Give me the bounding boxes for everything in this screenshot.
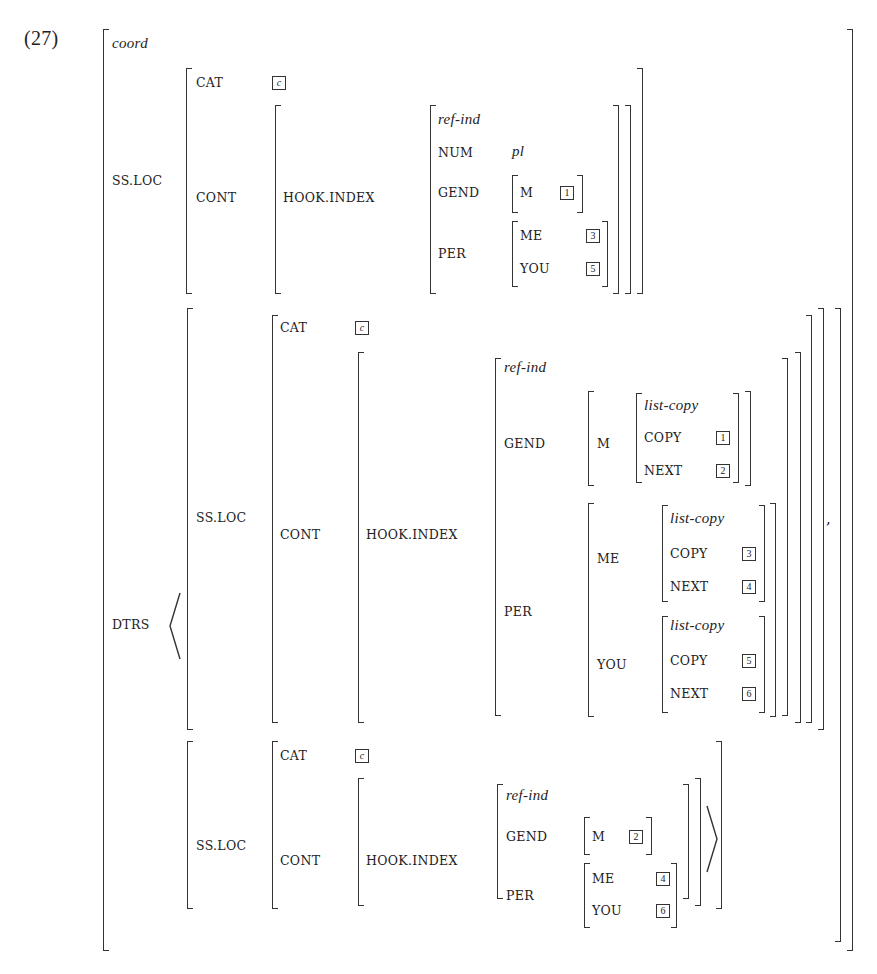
dtr2-per-you-tag: 6 [656, 904, 670, 918]
dtr1-index-type: ref-ind [504, 360, 546, 375]
dtr1-gend-label: GEND [504, 438, 545, 451]
dtr2-cat-label: CAT [280, 750, 307, 763]
dtr2-gend-m-label: M [592, 831, 605, 844]
mother-index-type: ref-ind [438, 112, 480, 127]
dtr1-gend-m-value-left-bracket [636, 393, 642, 483]
dtr1-per-you-copy-tag: 5 [742, 654, 756, 668]
dtr2-gend-right-bracket [646, 817, 652, 855]
dtr1-gend-left-bracket [588, 391, 594, 486]
dtr2-gend-label: GEND [506, 831, 547, 844]
mother-num-label: NUM [438, 147, 473, 160]
dtr1-ssloc-right-bracket [806, 315, 812, 723]
dtr2-index-left-bracket [497, 784, 503, 899]
example-number: (27) [24, 28, 59, 48]
dtr1-gend-copy-label: COPY [644, 432, 682, 445]
dtrs-separator-comma: , [826, 512, 831, 527]
dtr2-cont-left-bracket [358, 778, 364, 906]
dtr2-index-type: ref-ind [506, 788, 548, 803]
dtr1-per-you-value-right-bracket [759, 616, 765, 713]
dtr1-per-me-label: ME [597, 553, 620, 566]
outer-avm-left-bracket [103, 29, 109, 951]
dtr1-per-you-label: YOU [597, 659, 627, 672]
dtr1-index-right-bracket [782, 358, 788, 716]
mother-hook-index-label: HOOK.INDEX [283, 192, 375, 205]
dtr2-ssloc-outer-left-bracket [187, 741, 193, 909]
mother-gend-left-bracket [512, 175, 518, 213]
dtr1-gend-next-tag: 2 [716, 464, 730, 478]
mother-gend-m-label: M [520, 187, 533, 200]
mother-per-me-tag: 3 [586, 229, 600, 243]
dtr2-per-me-tag: 4 [656, 872, 670, 886]
dtr1-per-left-bracket [588, 503, 594, 717]
dtr1-per-right-bracket [770, 503, 776, 717]
dtrs-label: DTRS [112, 619, 150, 632]
dtr1-per-me-next-label: NEXT [670, 581, 709, 594]
outer-avm-right-bracket [847, 29, 853, 951]
dtr1-per-me-copy-tag: 3 [742, 547, 756, 561]
dtr1-ssloc-left-bracket [272, 315, 278, 723]
dtr1-left-bracket [187, 308, 193, 730]
mother-per-label: PER [438, 248, 466, 261]
mother-per-right-bracket [602, 221, 608, 287]
dtr1-per-you-next-tag: 6 [742, 687, 756, 701]
dtr2-gend-left-bracket [584, 817, 590, 855]
dtr1-cont-label: CONT [280, 529, 320, 542]
dtr2-per-right-bracket [671, 863, 677, 928]
dtr1-index-left-bracket [495, 358, 501, 716]
mother-ssloc-left-bracket [186, 68, 192, 294]
dtr1-per-you-type: list-copy [670, 618, 724, 633]
dtrs-value-right-bracket [835, 308, 841, 942]
dtrs-list-open-angle [168, 593, 182, 659]
dtr2-per-label: PER [506, 890, 534, 903]
dtr1-gend-m-value-right-bracket [733, 393, 739, 483]
mother-gend-right-bracket [577, 175, 583, 213]
dtr1-per-you-next-label: NEXT [670, 688, 709, 701]
dtr1-per-label: PER [504, 606, 532, 619]
mother-gend-m-tag: 1 [560, 186, 574, 200]
mother-per-you-tag: 5 [586, 262, 600, 276]
mother-cat-label: CAT [196, 77, 223, 90]
mother-num-value: pl [512, 144, 524, 159]
mother-cat-tag: c [272, 76, 286, 90]
dtr1-per-me-copy-label: COPY [670, 548, 708, 561]
mother-index-right-bracket [613, 105, 619, 294]
dtr1-per-you-copy-label: COPY [670, 655, 708, 668]
dtr1-cont-left-bracket [358, 352, 364, 723]
dtr1-per-me-value-right-bracket [759, 505, 765, 602]
dtr1-gend-next-label: NEXT [644, 465, 683, 478]
dtr1-cat-label: CAT [280, 322, 307, 335]
dtr1-gend-m-type: list-copy [644, 398, 698, 413]
dtr2-per-me-label: ME [592, 873, 615, 886]
dtr2-hook-index-label: HOOK.INDEX [366, 855, 458, 868]
mother-cont-left-bracket [275, 105, 281, 294]
dtr2-cat-tag: c [355, 749, 369, 763]
dtr2-ssloc-label: SS.LOC [196, 840, 246, 853]
mother-per-you-label: YOU [520, 263, 550, 276]
dtr2-per-left-bracket [584, 863, 590, 928]
dtr1-cat-tag: c [355, 321, 369, 335]
dtrs-list-close-angle [706, 806, 720, 872]
avm-type-coord: coord [112, 36, 148, 51]
mother-gend-label: GEND [438, 187, 479, 200]
dtr2-index-right-bracket [683, 784, 689, 899]
dtr1-per-me-value-left-bracket [662, 505, 668, 602]
dtr1-gend-copy-tag: 1 [716, 431, 730, 445]
mother-ssloc-label: SS.LOC [112, 175, 162, 188]
dtr1-cont-right-bracket [795, 352, 801, 723]
mother-per-left-bracket [512, 221, 518, 287]
dtr2-cont-label: CONT [280, 855, 320, 868]
dtr1-per-you-value-left-bracket [662, 616, 668, 713]
dtr2-ssloc-left-bracket [272, 741, 278, 909]
mother-cont-label: CONT [196, 192, 236, 205]
dtr2-gend-m-tag: 2 [629, 830, 643, 844]
dtr1-hook-index-label: HOOK.INDEX [366, 529, 458, 542]
dtr1-gend-right-bracket [745, 391, 751, 486]
dtr1-gend-m-label: M [597, 438, 610, 451]
mother-index-left-bracket [430, 105, 436, 294]
dtr1-right-bracket [818, 308, 824, 730]
dtr2-cont-right-bracket [695, 778, 701, 906]
dtr1-per-me-type: list-copy [670, 511, 724, 526]
mother-cont-right-bracket [625, 105, 631, 294]
mother-per-me-label: ME [520, 230, 543, 243]
mother-ssloc-right-bracket [637, 68, 643, 294]
